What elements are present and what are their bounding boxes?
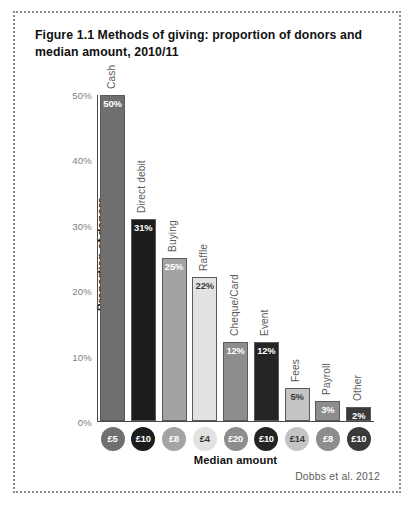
bar-category-label: Cheque/Card xyxy=(229,275,240,337)
bar-group: 3%Payroll xyxy=(315,401,340,421)
x-axis-title: Median amount xyxy=(97,454,374,466)
chart-plot-area: Proportion of donors 50% 40% 30% 20% 10%… xyxy=(15,13,403,495)
bar-value-label: 12% xyxy=(255,345,278,356)
bar-category-label: Buying xyxy=(167,220,178,252)
bar[interactable]: 2% xyxy=(346,407,371,420)
bar-category-label: Fees xyxy=(290,359,301,382)
bar-value-label: 3% xyxy=(316,404,339,415)
median-amount-badge[interactable]: £4 xyxy=(193,427,217,451)
bar-value-label: 50% xyxy=(101,98,124,109)
bar-value-label: 25% xyxy=(163,261,186,272)
median-amount-badge[interactable]: £20 xyxy=(224,427,248,451)
bar-value-label: 12% xyxy=(224,345,247,356)
median-amount-badge[interactable]: £10 xyxy=(254,427,278,451)
median-amount-badge[interactable]: £10 xyxy=(347,427,371,451)
bar-value-label: 22% xyxy=(193,280,216,291)
bar-group: 22%Raffle xyxy=(192,277,217,420)
bar-value-label: 5% xyxy=(286,391,309,402)
median-amount-badge[interactable]: £5 xyxy=(101,427,125,451)
bar-group: 2%Other xyxy=(346,407,371,420)
bar-category-label: Cash xyxy=(106,65,117,89)
bar-category-label: Payroll xyxy=(321,363,332,395)
bar-group: 5%Fees xyxy=(285,388,310,421)
chart-axes: 50% 40% 30% 20% 10% 0% 50%Cash31%Direct … xyxy=(97,95,374,422)
median-amount-badge[interactable]: £8 xyxy=(162,427,186,451)
bar[interactable]: 31% xyxy=(131,219,156,421)
bar-category-label: Direct debit xyxy=(136,160,147,213)
bar-value-label: 2% xyxy=(347,410,370,421)
y-tick-label: 30% xyxy=(72,220,92,231)
bar-group: 50%Cash xyxy=(100,95,125,421)
bar-group: 25%Buying xyxy=(162,258,187,421)
bar-category-label: Other xyxy=(352,376,363,402)
bar-category-label: Event xyxy=(259,310,270,337)
x-axis-line xyxy=(97,421,374,423)
median-amount-badge[interactable]: £10 xyxy=(131,427,155,451)
y-tick-label: 0% xyxy=(78,417,92,428)
bar-group: 12%Event xyxy=(254,342,279,420)
y-tick-label: 50% xyxy=(72,90,92,101)
y-tick-label: 10% xyxy=(72,351,92,362)
y-tick-label: 40% xyxy=(72,155,92,166)
figure-panel: Figure 1.1 Methods of giving: proportion… xyxy=(13,11,401,493)
bar[interactable]: 5% xyxy=(285,388,310,421)
bar[interactable]: 3% xyxy=(315,401,340,421)
y-tick-label: 20% xyxy=(72,286,92,297)
bar[interactable]: 50% xyxy=(100,95,125,421)
bar-category-label: Raffle xyxy=(198,244,209,271)
median-amount-badge[interactable]: £14 xyxy=(285,427,309,451)
y-axis-line xyxy=(97,95,98,422)
bar[interactable]: 12% xyxy=(223,342,248,420)
median-amount-badge[interactable]: £8 xyxy=(316,427,340,451)
bar-group: 31%Direct debit xyxy=(131,219,156,421)
bar[interactable]: 12% xyxy=(254,342,279,420)
source-attribution: Dobbs et al. 2012 xyxy=(295,471,380,482)
bar[interactable]: 25% xyxy=(162,258,187,421)
bar-value-label: 31% xyxy=(132,222,155,233)
bar[interactable]: 22% xyxy=(192,277,217,420)
bar-group: 12%Cheque/Card xyxy=(223,342,248,420)
